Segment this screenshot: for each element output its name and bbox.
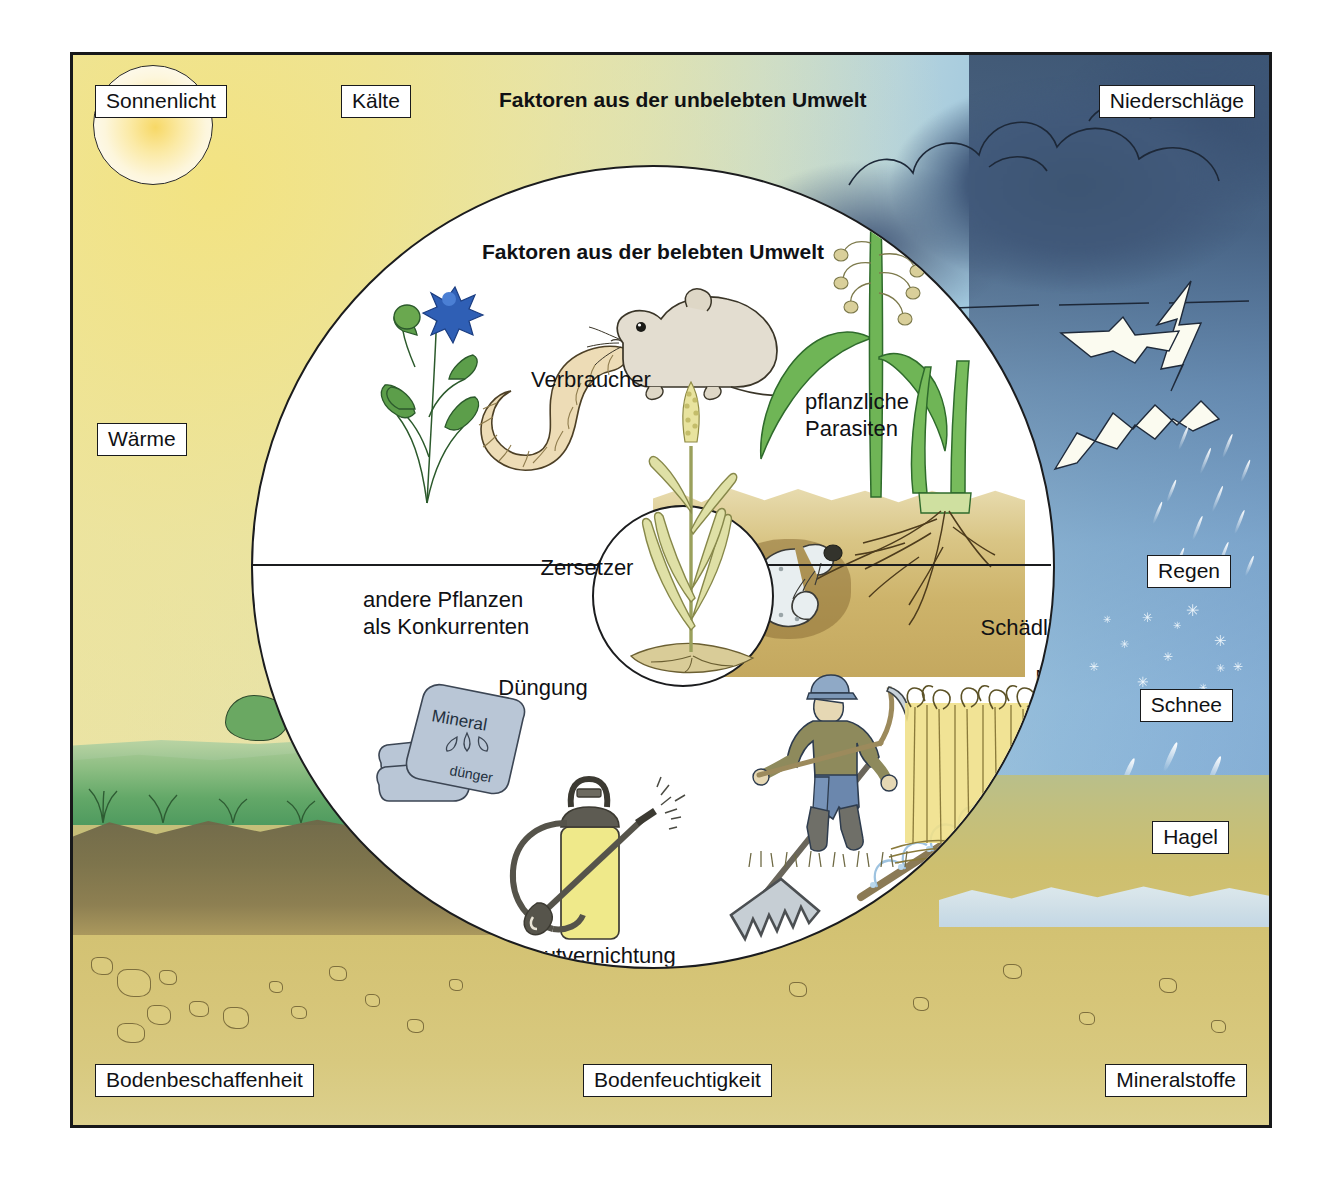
- title-unbelebte-umwelt: Faktoren aus der unbelebten Umwelt: [499, 87, 867, 113]
- label-zersetzer: Zersetzer: [541, 555, 634, 582]
- label-bodenbearbeitung: Bodenbearbeitung und Bewässerung: [825, 943, 1005, 969]
- label-pflanzliche-parasiten: pflanzliche Parasiten: [805, 389, 909, 443]
- label-bodenfeuchtigkeit: Bodenfeuchtigkeit: [583, 1064, 772, 1097]
- sun-icon: [93, 65, 213, 185]
- label-regen: Regen: [1147, 555, 1231, 588]
- diagram-canvas: ✳ ✳ ✳ ✳ ✳ ✳ ✳ ✳ ✳ ✳ ✳ ✳: [0, 0, 1339, 1185]
- stubble-icon: [743, 843, 943, 873]
- label-bodenbeschaffenheit: Bodenbeschaffenheit: [95, 1064, 314, 1097]
- lightning-icon: [1051, 273, 1251, 503]
- label-maehen-ernten: Mähen und Ernten: [1035, 665, 1055, 745]
- label-schaedlinge: Schädlinge: [981, 615, 1055, 642]
- label-unkrautvernichtung: Unkrautvernichtung Schädlingsbekämpfung: [485, 943, 714, 969]
- grain-sheaf-icon: [889, 667, 1055, 867]
- label-verbraucher: Verbraucher: [531, 367, 651, 394]
- label-mineralstoffe: Mineralstoffe: [1105, 1064, 1247, 1097]
- label-duengung: Düngung: [498, 675, 587, 702]
- pesticide-sprayer-icon: [485, 767, 685, 967]
- label-konkurrenten: andere Pflanzen als Konkurrenten: [363, 587, 529, 641]
- label-schnee: Schnee: [1140, 689, 1233, 722]
- label-sonnenlicht: Sonnenlicht: [95, 85, 227, 118]
- wheat-plant-icon: [607, 380, 767, 690]
- label-hagel: Hagel: [1152, 821, 1229, 854]
- label-waerme: Wärme: [97, 423, 187, 456]
- diagram-frame: ✳ ✳ ✳ ✳ ✳ ✳ ✳ ✳ ✳ ✳ ✳ ✳: [70, 52, 1272, 1128]
- title-belebte-umwelt: Faktoren aus der belebten Umwelt: [482, 239, 824, 265]
- label-niederschlaege: Niederschläge: [1099, 85, 1255, 118]
- label-kaelte: Kälte: [341, 85, 411, 118]
